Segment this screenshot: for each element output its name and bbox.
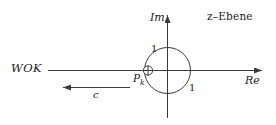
wok-label: WOK	[11, 63, 42, 75]
tick-label-imag-1: 1	[151, 44, 157, 54]
pole-label-subscript: k	[140, 78, 145, 87]
pole-label-pk: Pk	[133, 73, 145, 87]
pole-marker-pk	[143, 66, 152, 75]
imaginary-axis-label: Im	[150, 12, 165, 23]
real-axis-label: Re	[245, 75, 260, 86]
plane-label: z–Ebene	[207, 11, 253, 22]
parameter-label-c: c	[93, 90, 99, 100]
figure-canvas: Im Re z–Ebene WOK 1 1 Pk c	[0, 0, 276, 125]
tick-label-real-1: 1	[189, 83, 195, 93]
